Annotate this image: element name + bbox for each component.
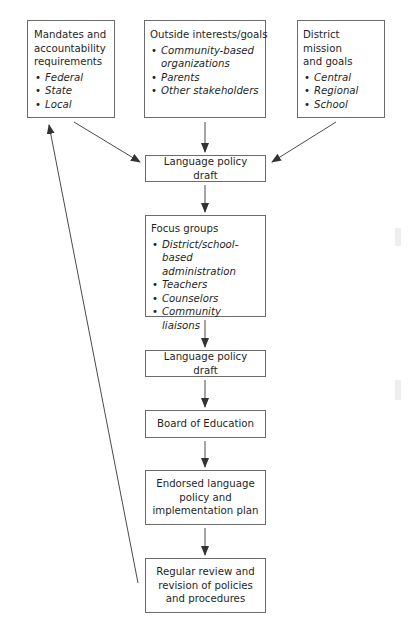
focus-groups-box: Focus groups District/school-based admin… <box>145 215 266 317</box>
mandates-box: Mandates and accountability requirements… <box>27 20 115 118</box>
mandates-title-line: Mandates and <box>34 29 106 40</box>
list-item: Parents <box>150 71 260 85</box>
scan-artifact <box>395 228 401 246</box>
mandates-list: Federal State Local <box>34 71 108 112</box>
district-title-line: and goals <box>303 56 353 67</box>
step-label: Board of Education <box>153 417 258 431</box>
mandates-title-line: accountability <box>34 43 106 54</box>
list-item: Regional <box>303 84 379 98</box>
step-label: Endorsed language policy and implementat… <box>146 477 265 518</box>
district-mission-title: District mission and goals <box>303 28 379 69</box>
language-policy-draft-box-2: Language policy draft <box>145 350 266 377</box>
focus-groups-list: District/school-based administration Tea… <box>151 238 260 333</box>
language-policy-draft-box-1: Language policy draft <box>145 155 266 182</box>
board-of-education-box: Board of Education <box>145 410 266 438</box>
mandates-title-line: requirements <box>34 56 102 67</box>
list-item: Federal <box>34 71 108 85</box>
list-item: Counselors <box>151 292 260 306</box>
focus-groups-title: Focus groups <box>151 222 260 236</box>
outside-interests-box: Outside interests/goals Community-based … <box>144 20 266 118</box>
list-item: State <box>34 84 108 98</box>
mandates-title: Mandates and accountability requirements <box>34 28 108 69</box>
list-item: Central <box>303 71 379 85</box>
step-label: Language policy draft <box>146 155 265 182</box>
step-label: Language policy draft <box>146 350 265 377</box>
list-item: Local <box>34 98 108 112</box>
arrow-mandates-to-draft <box>74 122 140 162</box>
list-item: School <box>303 98 379 112</box>
step-label: Regular review and revision of policies … <box>146 565 265 606</box>
list-item: Other stakeholders <box>150 84 260 98</box>
arrow-district-to-draft <box>272 122 336 162</box>
list-item: Community liaisons <box>151 305 260 332</box>
district-mission-list: Central Regional School <box>303 71 379 112</box>
list-item: Community-based organizations <box>150 44 260 71</box>
regular-review-box: Regular review and revision of policies … <box>145 558 266 613</box>
outside-interests-list: Community-based organizations Parents Ot… <box>150 44 260 98</box>
list-item: District/school-based administration <box>151 238 260 279</box>
arrow-review-to-mandates <box>49 125 138 583</box>
district-mission-box: District mission and goals Central Regio… <box>297 20 385 118</box>
district-title-line: District mission <box>303 29 342 54</box>
list-item: Teachers <box>151 278 260 292</box>
scan-artifact <box>395 380 401 400</box>
outside-interests-title: Outside interests/goals <box>150 28 260 42</box>
endorsed-policy-box: Endorsed language policy and implementat… <box>145 470 266 525</box>
